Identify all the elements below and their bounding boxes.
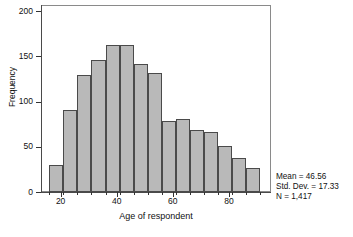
x-minor-tick-mark [204,192,205,195]
y-tick-label: 0 [0,188,33,197]
x-minor-tick-mark [91,192,92,195]
y-axis-line [41,5,42,192]
x-minor-tick-mark [106,192,107,195]
histogram-bar [190,130,204,192]
histogram-bar [148,73,162,192]
histogram-bar [232,158,246,192]
y-tick-label: 50 [0,142,33,151]
histogram-chart: 050100150200 20406080 Frequency Age of r… [0,0,353,237]
histogram-bar [246,168,260,192]
stat-mean: Mean = 46.56 [276,172,339,182]
x-minor-tick-mark [176,192,177,195]
histogram-bar [162,121,176,192]
histogram-bar [49,165,63,192]
histogram-bar [106,45,120,193]
x-minor-tick-mark [120,192,121,195]
x-minor-tick-mark [162,192,163,195]
x-tick-label: 40 [102,197,132,206]
x-minor-tick-mark [49,192,50,195]
y-axis-title: Frequency [7,39,17,135]
y-tick-mark [36,192,41,193]
histogram-bar [204,132,218,192]
y-tick-mark [36,56,41,57]
histogram-bar [91,60,105,192]
y-tick-label: 200 [0,7,33,16]
x-minor-tick-mark [260,192,261,195]
x-minor-tick-mark [232,192,233,195]
x-minor-tick-mark [246,192,247,195]
histogram-bar [218,146,232,192]
x-tick-label: 80 [214,197,244,206]
x-minor-tick-mark [134,192,135,195]
x-tick-label: 20 [46,197,76,206]
stat-std-dev: Std. Dev. = 17.33 [276,182,339,192]
y-tick-mark [36,11,41,12]
x-minor-tick-mark [77,192,78,195]
statistics-annotation: Mean = 46.56 Std. Dev. = 17.33 N = 1,417 [276,172,339,203]
y-tick-mark [36,147,41,148]
x-minor-tick-mark [63,192,64,195]
x-minor-tick-mark [218,192,219,195]
histogram-bar [176,119,190,192]
histogram-bar [134,64,148,192]
y-tick-mark [36,102,41,103]
stat-n: N = 1,417 [276,192,339,202]
x-axis-title: Age of respondent [41,211,271,222]
histogram-bar [63,110,77,192]
histogram-bars [41,5,271,192]
histogram-bar [120,45,134,193]
x-minor-tick-mark [190,192,191,195]
x-axis-line [41,192,271,193]
x-tick-label: 60 [158,197,188,206]
histogram-bar [77,75,91,192]
x-minor-tick-mark [148,192,149,195]
